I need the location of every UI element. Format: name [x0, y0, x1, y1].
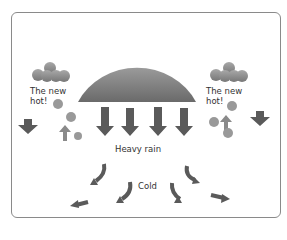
right-cloud-label-line1: The new	[206, 86, 242, 96]
updraft-arrow-icons	[59, 115, 232, 141]
left-cloud-label-line1: The new	[30, 86, 66, 96]
cold-label: Cold	[138, 181, 157, 191]
small-cloud-left-icon	[32, 62, 70, 82]
small-cloud-right-icon	[210, 62, 248, 82]
heavy-rain-label: Heavy rain	[115, 144, 161, 154]
left-cloud-label-line2: hot!	[30, 96, 66, 106]
rain-arrow-icons	[96, 107, 193, 136]
big-cloud-icon	[78, 68, 196, 102]
right-cloud-label: The new hot!	[206, 86, 242, 106]
right-cloud-label-line2: hot!	[206, 96, 242, 106]
left-cloud-label: The new hot!	[30, 86, 66, 106]
